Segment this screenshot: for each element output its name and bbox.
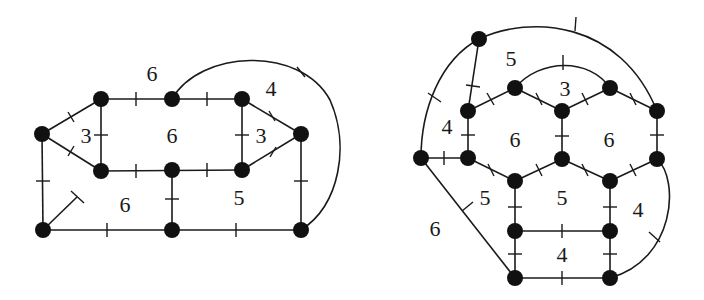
face-label: 4 [442, 114, 453, 139]
graph-node [234, 91, 250, 107]
face-label: 6 [120, 192, 131, 217]
graph-node [507, 80, 523, 96]
graph-node [602, 223, 618, 239]
face-label: 3 [81, 123, 92, 148]
graph-node [164, 162, 180, 178]
face-label: 4 [633, 197, 644, 222]
graph-node [35, 222, 51, 238]
planar-graph-figure: 6 4 3 6 3 6 5 [0, 0, 704, 300]
face-label: 5 [506, 46, 517, 71]
graph-node [293, 126, 309, 142]
graph-node [554, 103, 570, 119]
graph-node [554, 151, 570, 167]
face-label: 5 [480, 185, 491, 210]
face-label: 4 [266, 76, 277, 101]
left-graph: 6 4 3 6 3 6 5 [34, 60, 340, 238]
graph-node [602, 270, 618, 286]
graph-node [602, 80, 618, 96]
face-label: 6 [510, 127, 521, 152]
graph-node [649, 103, 665, 119]
graph-node [602, 173, 618, 189]
graph-node [164, 91, 180, 107]
left-graph-face-labels: 6 4 3 6 3 6 5 [81, 61, 277, 217]
graph-node [413, 150, 429, 166]
graph-node [93, 163, 109, 179]
face-label: 4 [557, 242, 568, 267]
face-label: 6 [167, 123, 178, 148]
face-label: 6 [604, 127, 615, 152]
face-label: 5 [557, 185, 568, 210]
graph-node [460, 103, 476, 119]
face-label: 3 [256, 123, 267, 148]
graph-node [293, 222, 309, 238]
face-label: 3 [560, 76, 571, 101]
face-label: 6 [430, 216, 441, 241]
right-graph-ticks [428, 17, 664, 285]
right-graph-edges [421, 27, 669, 278]
face-label: 6 [147, 61, 158, 86]
graph-node [471, 31, 487, 47]
right-graph: 5 3 4 6 6 5 5 4 6 4 [413, 17, 669, 286]
graph-node [649, 151, 665, 167]
graph-node [164, 222, 180, 238]
graph-node [460, 150, 476, 166]
graph-node [93, 91, 109, 107]
graph-node [507, 223, 523, 239]
graph-node [507, 270, 523, 286]
graph-node [34, 126, 50, 142]
graph-node [507, 173, 523, 189]
face-label: 5 [234, 185, 245, 210]
graph-node [234, 162, 250, 178]
